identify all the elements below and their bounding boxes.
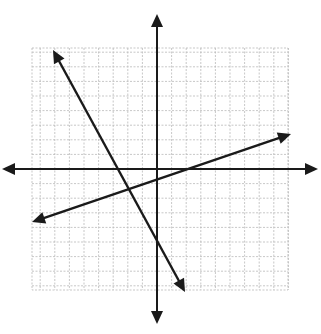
shallow-line (41, 137, 281, 219)
x-axis-left-arrow-icon (2, 163, 15, 175)
plotted-lines (32, 50, 291, 292)
axes (2, 14, 318, 324)
y-axis-up-arrow-icon (151, 14, 163, 27)
shallow-line-end-arrow-icon (277, 133, 291, 144)
coordinate-plane (0, 0, 321, 334)
x-axis-right-arrow-icon (305, 163, 318, 175)
shallow-line-start-arrow-icon (32, 212, 46, 223)
steep-line (58, 59, 180, 283)
y-axis-down-arrow-icon (151, 311, 163, 324)
